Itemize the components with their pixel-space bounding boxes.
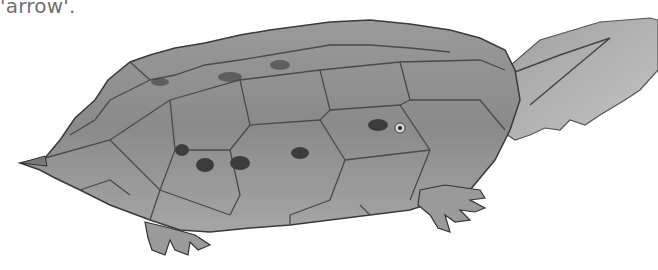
neck-flap <box>500 18 658 140</box>
turtle-illustration <box>0 0 658 270</box>
front-foot <box>418 185 485 232</box>
